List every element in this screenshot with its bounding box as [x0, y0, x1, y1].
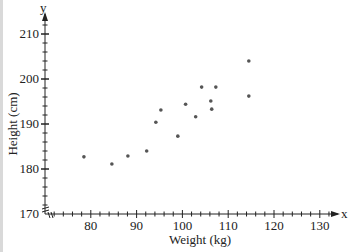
data-point	[184, 102, 188, 106]
data-point	[210, 107, 214, 111]
x-tick-label: 130	[310, 218, 330, 233]
data-points	[82, 59, 250, 166]
axes: 8090100110120130170180190200210	[20, 12, 341, 233]
data-point	[82, 155, 86, 159]
x-tick-label: 100	[173, 218, 193, 233]
data-point	[176, 134, 180, 138]
data-point	[126, 154, 130, 158]
y-axis-title: Height (cm)	[5, 92, 20, 155]
y-tick-label: 170	[20, 206, 40, 221]
data-point	[247, 59, 251, 63]
y-axis-letter: y	[40, 0, 47, 15]
x-axis-break-icon	[48, 212, 53, 218]
x-tick-label: 110	[219, 218, 238, 233]
data-point	[159, 108, 163, 112]
data-point	[145, 149, 149, 153]
x-tick-label: 120	[264, 218, 284, 233]
y-tick-label: 190	[20, 116, 40, 131]
data-point	[194, 115, 198, 119]
y-tick-label: 180	[20, 161, 40, 176]
data-point	[154, 120, 158, 124]
data-point	[110, 162, 114, 166]
x-axis-title: Weight (kg)	[169, 232, 231, 247]
data-point	[209, 99, 213, 103]
data-point	[200, 85, 204, 89]
y-tick-label: 210	[20, 26, 40, 41]
y-tick-label: 200	[20, 71, 40, 86]
data-point	[214, 85, 218, 89]
x-axis-arrow-icon	[331, 211, 340, 217]
data-point	[247, 94, 251, 98]
x-tick-label: 90	[130, 218, 143, 233]
scatter-chart: 8090100110120130170180190200210 Weight (…	[0, 0, 356, 252]
x-tick-label: 80	[84, 218, 97, 233]
x-axis-letter: x	[341, 206, 348, 221]
